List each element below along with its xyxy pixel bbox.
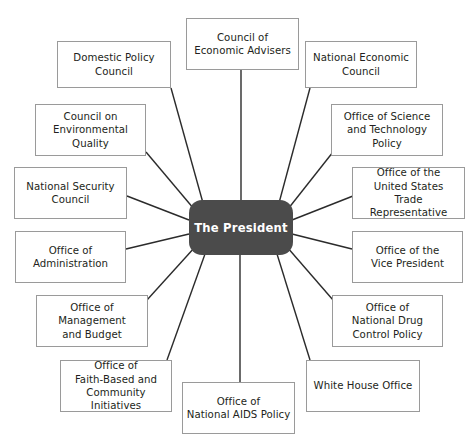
node-office-of-science-and-technology-policy[interactable]: Office of Science and Technology Policy: [331, 104, 443, 156]
node-office-of-national-aids-policy[interactable]: Office of National AIDS Policy: [182, 382, 295, 434]
node-council-on-environmental-quality[interactable]: Council on Environmental Quality: [35, 104, 146, 156]
node-label: National Economic Council: [313, 51, 409, 78]
node-label: Office of Management and Budget: [58, 301, 126, 341]
connector-office-of-the-vice-president: [292, 234, 352, 249]
node-office-of-management-and-budget[interactable]: Office of Management and Budget: [36, 295, 148, 347]
node-label: Office of Science and Technology Policy: [344, 110, 431, 150]
node-label: Office of Administration: [33, 244, 108, 271]
connector-office-of-management-and-budget: [147, 247, 195, 300]
connector-office-of-faith-based-and-community-initiatives: [167, 254, 205, 360]
node-national-security-council[interactable]: National Security Council: [14, 167, 127, 219]
node-council-of-economic-advisers[interactable]: Council of Economic Advisers: [186, 18, 299, 70]
connector-council-on-environmental-quality: [146, 152, 194, 209]
node-label: Domestic Policy Council: [73, 51, 154, 78]
connector-office-of-national-drug-control-policy: [287, 247, 333, 300]
hub-the-president[interactable]: The President: [189, 200, 293, 255]
node-white-house-office[interactable]: White House Office: [306, 360, 420, 412]
node-office-of-national-drug-control-policy[interactable]: Office of National Drug Control Policy: [332, 295, 443, 347]
node-label: Office of National AIDS Policy: [187, 395, 291, 422]
hub-label: The President: [194, 221, 288, 235]
connector-national-economic-council: [279, 88, 310, 203]
node-label: Council of Economic Advisers: [194, 31, 291, 58]
node-label: Council on Environmental Quality: [53, 110, 128, 150]
node-office-of-administration[interactable]: Office of Administration: [15, 231, 126, 283]
node-domestic-policy-council[interactable]: Domestic Policy Council: [57, 41, 171, 88]
node-label: Office of Faith-Based and Community Init…: [64, 359, 168, 413]
node-national-economic-council[interactable]: National Economic Council: [305, 41, 417, 88]
node-office-of-the-united-states-trade-representative[interactable]: Office of the United States Trade Repres…: [352, 167, 465, 219]
connector-office-of-the-united-states-trade-representative: [292, 196, 353, 220]
node-label: National Security Council: [26, 180, 114, 207]
connector-office-of-science-and-technology-policy: [288, 152, 333, 209]
connector-national-security-council: [127, 196, 189, 220]
connector-office-of-administration: [126, 234, 189, 249]
node-label: Office of the Vice President: [371, 244, 444, 271]
executive-office-diagram: Council of Economic AdvisersNational Eco…: [0, 0, 474, 448]
node-label: White House Office: [314, 379, 413, 392]
node-label: Office of the United States Trade Repres…: [356, 166, 461, 220]
node-label: Office of National Drug Control Policy: [352, 301, 423, 341]
connector-white-house-office: [277, 254, 310, 360]
node-office-of-the-vice-president[interactable]: Office of the Vice President: [352, 231, 463, 283]
node-office-of-faith-based-and-community-initiatives[interactable]: Office of Faith-Based and Community Init…: [60, 360, 172, 412]
connector-domestic-policy-council: [171, 88, 203, 203]
